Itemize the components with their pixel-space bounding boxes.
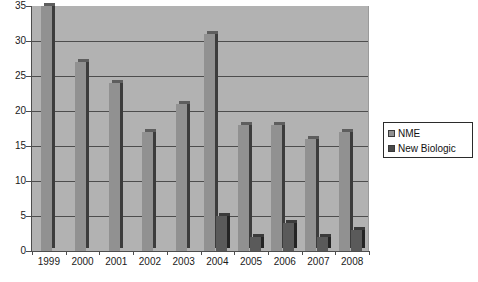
y-tick-label-25: 25 — [0, 71, 26, 81]
y-tick-mark-10 — [26, 181, 31, 182]
bar-face — [204, 34, 215, 251]
bar-face — [216, 216, 227, 251]
x-tick-mark-1999 — [32, 251, 33, 255]
bar-face — [238, 125, 249, 251]
legend-item-new-biologic: New Biologic — [388, 141, 468, 156]
y-tick-label-5: 5 — [0, 211, 26, 221]
bar-nme-1999 — [41, 6, 52, 251]
bar-face — [109, 83, 120, 251]
bar-top-cap — [342, 129, 353, 132]
bar-face — [283, 223, 294, 251]
y-tick-mark-20 — [26, 111, 31, 112]
bar-face — [176, 104, 187, 251]
x-tick-mark-2001 — [99, 251, 100, 255]
y-tick-label-35: 35 — [0, 1, 26, 11]
bar-face — [41, 6, 52, 251]
x-tick-mark-2002 — [133, 251, 134, 255]
y-tick-mark-15 — [26, 146, 31, 147]
bar-side-shadow — [249, 122, 252, 248]
y-tick-mark-35 — [26, 6, 31, 7]
bar-face — [339, 132, 350, 251]
bar-new-biologic-2007 — [317, 237, 328, 251]
bar-side-shadow — [316, 136, 319, 248]
plot-area — [32, 6, 369, 251]
bar-side-shadow — [187, 101, 190, 248]
bar-new-biologic-2004 — [216, 216, 227, 251]
bar-top-cap — [44, 3, 55, 6]
bar-nme-2007 — [305, 139, 316, 251]
bar-side-shadow — [120, 80, 123, 248]
bar-top-cap — [207, 31, 218, 34]
bar-face — [305, 139, 316, 251]
x-axis-line — [26, 251, 370, 252]
x-tick-mark-2000 — [66, 251, 67, 255]
x-tick-mark-2007 — [302, 251, 303, 255]
bar-chart: 05101520253035 1999200020012002200320042… — [0, 0, 478, 282]
bar-top-cap — [179, 101, 190, 104]
x-tick-mark-end — [369, 251, 370, 255]
bar-face — [271, 125, 282, 251]
x-tick-mark-2004 — [201, 251, 202, 255]
bar-new-biologic-2008 — [351, 230, 362, 251]
bar-top-cap — [112, 80, 123, 83]
bar-top-cap — [78, 59, 89, 62]
bar-side-shadow — [52, 3, 55, 248]
bar-nme-2000 — [75, 62, 86, 251]
x-tick-mark-2006 — [268, 251, 269, 255]
bar-new-biologic-2006 — [283, 223, 294, 251]
gridline-30 — [32, 41, 368, 42]
x-tick-label-2000: 2000 — [67, 256, 99, 267]
y-tick-mark-0 — [26, 251, 31, 252]
bar-top-cap — [274, 122, 285, 125]
bar-top-cap — [145, 129, 156, 132]
bar-top-cap — [241, 122, 252, 125]
y-tick-mark-30 — [26, 41, 31, 42]
y-tick-mark-5 — [26, 216, 31, 217]
legend-swatch-new-biologic — [388, 145, 395, 152]
y-tick-label-10: 10 — [0, 176, 26, 186]
bar-side-shadow — [362, 227, 365, 248]
y-tick-label-30: 30 — [0, 36, 26, 46]
bar-top-cap — [354, 227, 365, 230]
x-tick-mark-2005 — [234, 251, 235, 255]
x-tick-label-2007: 2007 — [302, 256, 334, 267]
x-tick-label-2002: 2002 — [134, 256, 166, 267]
x-tick-mark-2003 — [167, 251, 168, 255]
y-tick-label-15: 15 — [0, 141, 26, 151]
bar-face — [250, 237, 261, 251]
legend-item-nme: NME — [388, 126, 468, 141]
y-axis-line — [31, 6, 32, 252]
bar-side-shadow — [227, 213, 230, 248]
bar-side-shadow — [294, 220, 297, 248]
x-tick-label-2006: 2006 — [269, 256, 301, 267]
bar-face — [317, 237, 328, 251]
x-tick-label-2008: 2008 — [336, 256, 368, 267]
x-tick-label-2001: 2001 — [100, 256, 132, 267]
x-tick-label-2003: 2003 — [168, 256, 200, 267]
bar-face — [75, 62, 86, 251]
bar-new-biologic-2005 — [250, 237, 261, 251]
bar-top-cap — [253, 234, 264, 237]
bar-top-cap — [219, 213, 230, 216]
bar-top-cap — [320, 234, 331, 237]
bar-nme-2001 — [109, 83, 120, 251]
legend-label-nme: NME — [398, 128, 420, 139]
bar-side-shadow — [153, 129, 156, 248]
y-tick-label-0: 0 — [0, 246, 26, 256]
bar-nme-2006 — [271, 125, 282, 251]
bar-nme-2003 — [176, 104, 187, 251]
legend-label-new-biologic: New Biologic — [398, 143, 456, 154]
bar-side-shadow — [86, 59, 89, 248]
bar-face — [142, 132, 153, 251]
bar-nme-2002 — [142, 132, 153, 251]
x-tick-mark-2008 — [335, 251, 336, 255]
y-tick-mark-25 — [26, 76, 31, 77]
legend-swatch-nme — [388, 130, 395, 137]
bar-nme-2008 — [339, 132, 350, 251]
bar-nme-2005 — [238, 125, 249, 251]
chart-legend: NME New Biologic — [383, 122, 473, 158]
bar-nme-2004 — [204, 34, 215, 251]
x-tick-label-1999: 1999 — [33, 256, 65, 267]
bar-top-cap — [286, 220, 297, 223]
x-tick-label-2004: 2004 — [201, 256, 233, 267]
